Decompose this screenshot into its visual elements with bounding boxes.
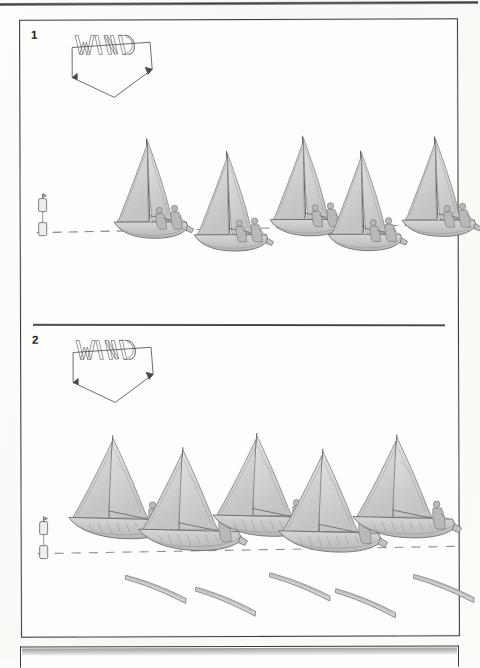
panel-2-wake-1 xyxy=(124,575,188,603)
panel-1-mark-buoy xyxy=(39,194,47,236)
panel-2-layline xyxy=(38,546,459,553)
panel-2-wake-5 xyxy=(412,574,476,602)
panel-2-wake-4 xyxy=(333,589,397,618)
panel-1-boat-1 xyxy=(114,138,194,238)
panel-2-water-stage xyxy=(21,324,459,636)
panel-2-wake-2 xyxy=(193,587,257,616)
figure-box: 1 xyxy=(19,18,460,637)
panel-2: 2 xyxy=(21,324,459,636)
panel-1-water-stage xyxy=(20,19,458,323)
panel-1: 1 xyxy=(20,19,458,323)
previous-figure-bottom-rule xyxy=(0,1,478,6)
panel-2-mark-buoy xyxy=(40,517,48,559)
panel-1-boat-2 xyxy=(194,151,274,251)
panel-1-boat-5 xyxy=(402,136,480,236)
panel-2-boat-5 xyxy=(353,434,462,538)
panel-2-wake-3 xyxy=(268,573,332,601)
next-figure-box-partial xyxy=(20,645,459,667)
panel-1-boat-4 xyxy=(328,150,408,250)
